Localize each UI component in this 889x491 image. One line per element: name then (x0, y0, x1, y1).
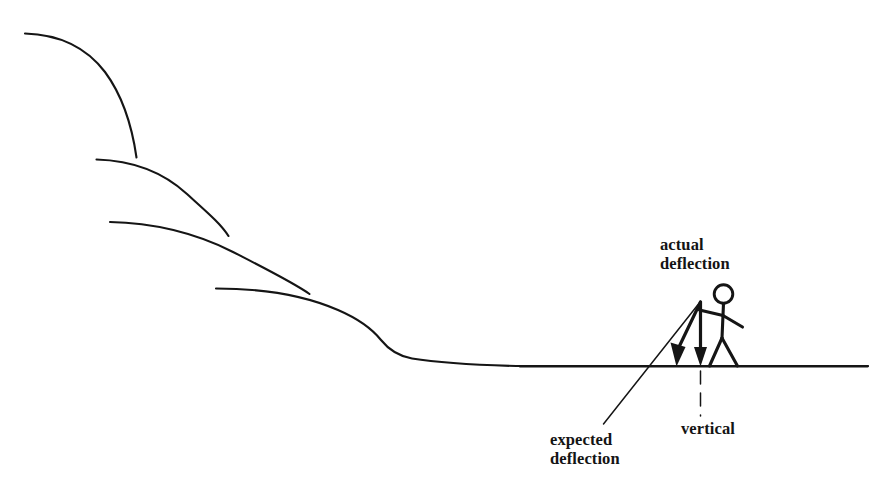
stick-figure-group (700, 285, 743, 366)
expected-deflection-leader-line (604, 302, 701, 425)
deflection-diagram-figure: actual deflection expected deflection ve… (0, 0, 889, 491)
diagram-canvas (0, 0, 889, 491)
mountain-terrace-1-curve (25, 34, 137, 158)
mountain-terrace-4-curve (216, 289, 868, 367)
mountain-terrace-3-curve (110, 222, 310, 294)
stick-figure-head-icon (714, 285, 733, 304)
stick-figure-left-arm (700, 310, 724, 316)
label-expected-deflection: expected deflection (550, 431, 620, 469)
stick-figure-left-leg (710, 338, 723, 366)
mountain-terrace-2-curve (97, 160, 229, 237)
label-vertical: vertical (681, 420, 735, 439)
stick-figure-right-leg (722, 338, 738, 366)
stick-figure-torso (722, 304, 724, 339)
mountain-terrain-group (25, 34, 868, 367)
vertical-arrowhead (694, 347, 707, 367)
expected-deflection-group (604, 302, 701, 425)
label-actual-deflection: actual deflection (660, 236, 730, 274)
stick-figure-right-arm (723, 316, 743, 328)
actual-deflection-arrowhead (671, 343, 686, 367)
